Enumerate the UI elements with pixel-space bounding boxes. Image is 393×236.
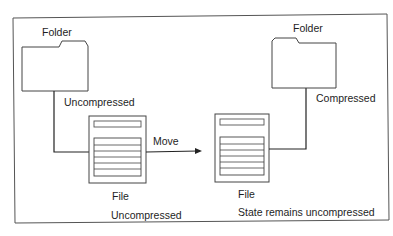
- left-file-state: Uncompressed: [111, 209, 182, 221]
- right-folder-state: Compressed: [316, 92, 376, 104]
- right-file-label: File: [238, 188, 255, 200]
- left-folder-state: Uncompressed: [64, 96, 135, 108]
- right-folder-icon: [272, 38, 336, 88]
- right-file-icon: [215, 114, 269, 182]
- left-file-label: File: [112, 190, 129, 202]
- right-folder-label: Folder: [293, 22, 323, 34]
- left-file-icon: [89, 116, 146, 183]
- left-folder-label: Folder: [42, 26, 72, 38]
- move-label: Move: [153, 135, 179, 147]
- right-file-state: State remains uncompressed: [238, 206, 375, 218]
- diagram-canvas: Folder Uncompressed File Uncompressed Mo…: [0, 0, 393, 236]
- left-folder-icon: [22, 41, 88, 91]
